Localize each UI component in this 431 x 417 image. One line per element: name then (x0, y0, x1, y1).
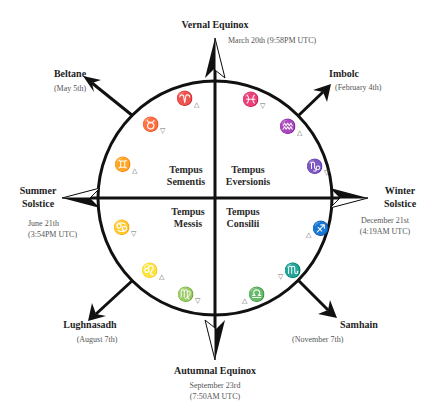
summer-solstice-date-1: June 21th (28, 218, 88, 229)
autumnal-equinox-label: Autumnal Equinox September 23rd (7:50AM … (155, 364, 275, 402)
virgo-icon: ♍ (177, 287, 194, 302)
earth-triangle-icon: ▽ (160, 127, 165, 135)
beltane-date: (May 5th) (40, 83, 100, 94)
autumnal-equinox-title: Autumnal Equinox (155, 364, 275, 377)
pisces-sign: ♓▽ (242, 93, 265, 113)
winter-solstice-label: Winter Solstice (372, 184, 428, 210)
fire-triangle-icon: △ (306, 231, 311, 239)
arrow-lughnasadh-icon (88, 280, 133, 321)
pisces-icon: ♓ (242, 92, 259, 107)
water-triangle-icon: ▽ (278, 273, 283, 281)
cancer-sign: ♋▽ (113, 221, 136, 241)
quadrant-messis-line1: Tempus (165, 206, 211, 218)
autumnal-equinox-date-1: September 23rd (155, 380, 275, 391)
winter-solstice-title-1: Winter (372, 184, 428, 197)
quadrant-consilii: Tempus Consilii (218, 206, 268, 230)
summer-solstice-date-2: (3:54PM UTC) (28, 229, 88, 240)
aries-icon: ♈ (176, 91, 193, 106)
quadrant-sementis: Tempus Sementis (160, 164, 212, 188)
cancer-icon: ♋ (113, 220, 130, 235)
earth-triangle-icon: ▽ (324, 169, 329, 177)
lughnasadh-label: Lughnasadh (August 7th) (55, 318, 125, 345)
taurus-sign: ♉▽ (142, 118, 165, 138)
gemini-sign: ♊△ (114, 158, 137, 178)
imbolc-date: (February 4th) (323, 82, 393, 93)
vernal-equinox-label: Vernal Equinox (160, 18, 270, 31)
air-triangle-icon: △ (242, 297, 247, 305)
imbolc-label: Imbolc (February 4th) (323, 67, 393, 93)
samhain-title: Samhain (290, 318, 400, 331)
air-triangle-icon: △ (132, 167, 137, 175)
winter-solstice-date-2: (4:19AM UTC) (350, 226, 420, 237)
vernal-equinox-date-label: March 20th (9:58PM UTC) (228, 35, 348, 46)
aries-sign: ♈△ (176, 92, 199, 112)
libra-icon: ♎ (248, 287, 265, 302)
fire-triangle-icon: △ (194, 101, 199, 109)
quadrant-sementis-line2: Sementis (160, 176, 212, 188)
leo-icon: ♌ (141, 263, 158, 278)
taurus-icon: ♉ (142, 117, 159, 132)
quadrant-sementis-line1: Tempus (160, 164, 212, 176)
aquarius-sign: ♒△ (279, 120, 302, 140)
capricorn-icon: ♑ (306, 159, 323, 174)
gemini-icon: ♊ (114, 157, 131, 172)
sagittarius-icon: ♐ (312, 221, 329, 236)
leo-sign: ♌△ (141, 264, 164, 284)
winter-solstice-date-label: December 21st (4:19AM UTC) (350, 215, 420, 237)
quadrant-consilii-line1: Tempus (218, 206, 268, 218)
summer-solstice-title-2: Solstice (8, 197, 68, 210)
quadrant-messis-line2: Messis (165, 218, 211, 230)
winter-solstice-date-1: December 21st (350, 215, 420, 226)
lughnasadh-title: Lughnasadh (55, 318, 125, 331)
air-triangle-icon: △ (297, 129, 302, 137)
summer-solstice-date-label: June 21th (3:54PM UTC) (28, 218, 88, 240)
autumnal-equinox-date-2: (7:50AM UTC) (155, 391, 275, 402)
summer-solstice-label: Summer Solstice (8, 184, 68, 210)
water-triangle-icon: ▽ (131, 230, 136, 238)
vernal-equinox-title: Vernal Equinox (160, 18, 270, 31)
earth-triangle-icon: ▽ (195, 297, 200, 305)
imbolc-title: Imbolc (323, 67, 393, 80)
fire-triangle-icon: △ (159, 273, 164, 281)
sagittarius-sign: △♐ (306, 222, 329, 242)
virgo-sign: ♍▽ (177, 288, 200, 308)
summer-solstice-title-1: Summer (8, 184, 68, 197)
libra-sign: △♎ (242, 288, 265, 308)
arrow-samhain-icon (298, 280, 337, 318)
samhain-label: Samhain (November 7th) (290, 318, 400, 345)
winter-solstice-title-2: Solstice (372, 197, 428, 210)
lughnasadh-date: (August 7th) (55, 334, 125, 345)
scorpio-icon: ♏ (284, 263, 301, 278)
samhain-date: (November 7th) (290, 334, 400, 345)
quadrant-eversionis-line2: Eversionis (218, 176, 278, 188)
capricorn-sign: ♑▽ (306, 160, 329, 180)
quadrant-consilii-line2: Consilii (218, 218, 268, 230)
quadrant-eversionis: Tempus Eversionis (218, 164, 278, 188)
scorpio-sign: ▽♏ (278, 264, 301, 284)
quadrant-eversionis-line1: Tempus (218, 164, 278, 176)
beltane-title: Beltane (40, 67, 100, 80)
vernal-equinox-date: March 20th (9:58PM UTC) (228, 35, 348, 46)
water-triangle-icon: ▽ (260, 102, 265, 110)
quadrant-messis: Tempus Messis (165, 206, 211, 230)
beltane-label: Beltane (May 5th) (40, 67, 100, 94)
aquarius-icon: ♒ (279, 119, 296, 134)
